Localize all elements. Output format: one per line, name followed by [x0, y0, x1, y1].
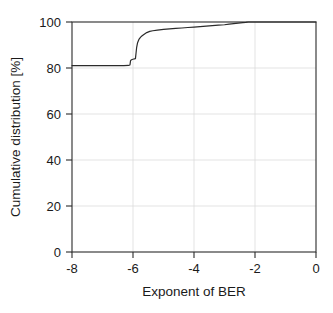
y-tick-label: 0 — [54, 245, 61, 260]
x-axis-title: Exponent of BER — [142, 284, 246, 299]
x-tick-label: -4 — [188, 261, 200, 276]
y-tick-label: 20 — [47, 199, 61, 214]
x-tick-label: -6 — [127, 261, 139, 276]
y-axis-title: Cumulative distribution [%] — [8, 57, 23, 217]
x-tick-label: -8 — [66, 261, 78, 276]
cumulative-distribution-chart: -8-6-4-20 020406080100 Exponent of BER C… — [0, 0, 333, 313]
chart-figure: -8-6-4-20 020406080100 Exponent of BER C… — [0, 0, 333, 313]
y-tick-label: 80 — [47, 61, 61, 76]
y-tick-label: 40 — [47, 153, 61, 168]
y-tick-label: 60 — [47, 107, 61, 122]
x-tick-label: -2 — [249, 261, 261, 276]
x-tick-label: 0 — [312, 261, 319, 276]
y-tick-label: 100 — [39, 15, 61, 30]
